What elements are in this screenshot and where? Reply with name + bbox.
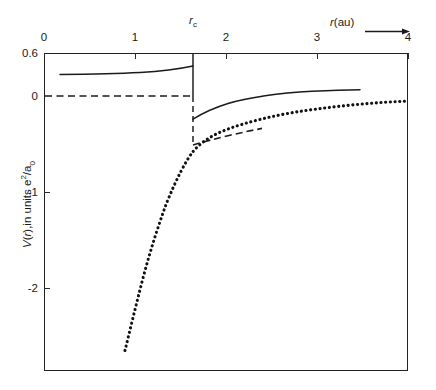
rc-annotation-label: rc	[189, 14, 197, 29]
rc-subscript: c	[193, 20, 197, 29]
ytick-label-0: 0	[8, 90, 38, 102]
xtick-0	[44, 53, 45, 59]
xtick-4	[408, 53, 409, 59]
y-axis-title-openparen: (	[21, 237, 33, 241]
x-axis-title-unit: (au)	[334, 16, 354, 28]
pseudopotential-inner-branch	[60, 66, 193, 75]
y-axis-title-rest: ),in units e	[21, 180, 33, 233]
pseudopotential-outer-branch	[193, 90, 360, 120]
xtick-3	[317, 53, 318, 59]
ytick-minus1	[44, 192, 50, 193]
xtick-2	[226, 53, 227, 59]
y-axis-title: V(r),in units e2/a0	[19, 125, 36, 285]
y-axis-title-V: V	[21, 240, 33, 248]
ytick-label-0p6: 0.6	[8, 47, 38, 59]
xtick-label-1: 1	[132, 31, 138, 43]
xtick-1	[135, 53, 136, 59]
curves-layer	[0, 0, 436, 390]
y-axis-title-slash: /a	[21, 166, 33, 176]
x-axis-title: r(au)	[330, 16, 354, 28]
y-axis-title-exponent: 2	[19, 175, 28, 179]
y-axis-title-r: r	[21, 233, 33, 237]
xtick-label-3: 3	[314, 31, 320, 43]
xtick-label-2: 2	[223, 31, 229, 43]
y-axis-title-subzero: 0	[28, 161, 37, 165]
xtick-label-0: 0	[41, 31, 47, 43]
coulomb-potential	[125, 101, 408, 350]
figure-root: 0 1 2 3 4 0.6 0 -1 -2 rc r(au) V(r),in u…	[0, 0, 436, 390]
x-axis-arrow-icon	[365, 27, 411, 36]
ytick-minus2	[44, 288, 50, 289]
